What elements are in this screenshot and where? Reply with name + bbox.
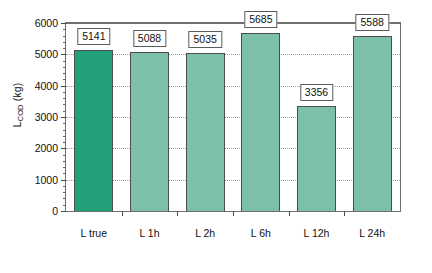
- bar: [186, 53, 225, 211]
- y-axis-tick: [61, 180, 66, 181]
- y-axis-minor-tick: [63, 104, 66, 105]
- y-axis-minor-tick: [63, 73, 66, 74]
- y-axis-minor-tick: [63, 192, 66, 193]
- y-axis-minor-tick: [63, 186, 66, 187]
- y-axis-minor-tick: [63, 130, 66, 131]
- gridline: [66, 86, 400, 87]
- gridline: [66, 117, 400, 118]
- gridline: [66, 23, 400, 24]
- y-axis-title-base: L: [11, 121, 23, 127]
- y-axis-minor-tick: [63, 161, 66, 162]
- x-axis-tick-label: L true: [81, 227, 107, 239]
- y-axis-minor-tick: [63, 142, 66, 143]
- x-axis-tick-label: L 6h: [251, 227, 271, 239]
- y-axis-minor-tick: [63, 29, 66, 30]
- gridline: [66, 180, 400, 181]
- y-axis-tick-label: 0: [52, 205, 58, 217]
- x-axis-tick-label: L 24h: [359, 227, 385, 239]
- y-axis-minor-tick: [63, 173, 66, 174]
- y-axis-minor-tick: [63, 136, 66, 137]
- y-axis-minor-tick: [63, 36, 66, 37]
- y-axis-minor-tick: [63, 198, 66, 199]
- bar: [241, 33, 280, 211]
- x-axis-tick-label: L 12h: [304, 227, 330, 239]
- plot-area: 01000200030004000500060005141L true5088L…: [65, 22, 401, 212]
- y-axis-tick: [61, 54, 66, 55]
- y-axis-tick-label: 3000: [35, 111, 58, 123]
- y-axis-minor-tick: [63, 79, 66, 80]
- y-axis-minor-tick: [63, 67, 66, 68]
- y-axis-tick-label: 2000: [35, 142, 58, 154]
- bar-chart: LCOD (kg) 01000200030004000500060005141L…: [0, 0, 432, 273]
- y-axis-minor-tick: [63, 111, 66, 112]
- y-axis-minor-tick: [63, 123, 66, 124]
- gridline: [66, 54, 400, 55]
- y-axis-title-subscript: COD: [16, 104, 25, 121]
- y-axis-tick: [61, 148, 66, 149]
- y-axis-tick: [61, 86, 66, 87]
- x-axis-tick: [344, 211, 345, 216]
- y-axis-tick: [61, 117, 66, 118]
- y-axis-minor-tick: [63, 92, 66, 93]
- y-axis-minor-tick: [63, 48, 66, 49]
- y-axis-minor-tick: [63, 205, 66, 206]
- x-axis-tick: [289, 211, 290, 216]
- bar-value-label: 5588: [355, 14, 388, 31]
- bar-value-label: 5035: [188, 31, 221, 48]
- x-axis-tick-label: L 1h: [139, 227, 159, 239]
- bar: [353, 36, 392, 211]
- x-axis-tick: [233, 211, 234, 216]
- y-axis-minor-tick: [63, 61, 66, 62]
- x-axis-tick-label: L 2h: [195, 227, 215, 239]
- y-axis-minor-tick: [63, 98, 66, 99]
- y-axis-tick-label: 4000: [35, 80, 58, 92]
- y-axis-title-unit: (kg): [11, 82, 23, 104]
- bar: [130, 52, 169, 211]
- y-axis-tick-label: 5000: [35, 48, 58, 60]
- bar: [297, 106, 336, 211]
- bar-value-label: 5685: [244, 11, 277, 28]
- y-axis-tick-label: 1000: [35, 174, 58, 186]
- y-axis-minor-tick: [63, 42, 66, 43]
- x-axis-tick: [122, 211, 123, 216]
- y-axis-minor-tick: [63, 167, 66, 168]
- bar-value-label: 5088: [133, 30, 166, 47]
- gridline: [66, 148, 400, 149]
- bar: [74, 50, 113, 211]
- bar-value-label: 3356: [300, 84, 333, 101]
- x-axis-tick: [177, 211, 178, 216]
- y-axis-tick: [61, 211, 66, 212]
- y-axis-tick-label: 6000: [35, 17, 58, 29]
- bar-value-label: 5141: [77, 28, 110, 45]
- y-axis-minor-tick: [63, 155, 66, 156]
- y-axis-title: LCOD (kg): [11, 55, 25, 155]
- y-axis-tick: [61, 23, 66, 24]
